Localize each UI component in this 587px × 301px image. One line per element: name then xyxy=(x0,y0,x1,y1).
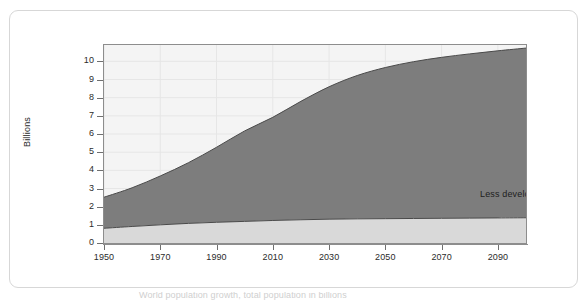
x-axis-tick xyxy=(329,245,330,250)
y-axis-tick-label: 5 xyxy=(74,147,94,156)
x-axis-tick-label: 2090 xyxy=(478,252,518,262)
y-axis-tick-label: 3 xyxy=(74,184,94,193)
x-axis-tick xyxy=(104,245,105,250)
x-axis-line xyxy=(103,244,528,245)
x-axis-tick-label: 2030 xyxy=(309,252,349,262)
y-axis-tick-label: 4 xyxy=(74,165,94,174)
y-axis-tick-label: 0 xyxy=(74,238,94,247)
y-axis-tick-label: 8 xyxy=(74,93,94,102)
y-axis-tick-label: 9 xyxy=(74,75,94,84)
x-axis-tick xyxy=(217,245,218,250)
x-axis-tick-label: 2050 xyxy=(365,252,405,262)
series-label-less-developed-regions: Less developed regions xyxy=(480,189,527,199)
y-axis-tick-label: 1 xyxy=(74,220,94,229)
y-axis-tick-label: 7 xyxy=(74,111,94,120)
y-axis-tick-label: 6 xyxy=(74,129,94,138)
area-chart-svg xyxy=(104,45,526,243)
y-axis-tick-label: 10 xyxy=(74,56,94,65)
x-axis-tick xyxy=(385,245,386,250)
area-less-developed-regions xyxy=(104,48,526,228)
x-axis-tick xyxy=(273,245,274,250)
x-axis-tick-label: 2070 xyxy=(422,252,462,262)
x-axis-tick-label: 1990 xyxy=(197,252,237,262)
y-axis-tick-labels: 012345678910 xyxy=(70,11,94,289)
y-axis-tick-label: 2 xyxy=(74,202,94,211)
x-axis-tick-label: 2010 xyxy=(253,252,293,262)
chart-card: Billions 012345678910 Less developed reg… xyxy=(9,10,578,288)
x-axis-tick xyxy=(160,245,161,250)
screenshot-root: Billions 012345678910 Less developed reg… xyxy=(0,0,587,301)
x-axis-tick-label: 1950 xyxy=(84,252,124,262)
x-axis-tick xyxy=(442,245,443,250)
plot-area: Less developed regions More developed re… xyxy=(103,44,527,244)
x-axis-tick-label: 1970 xyxy=(140,252,180,262)
figure-caption: World population growth, total populatio… xyxy=(139,292,347,300)
y-axis-title: Billions xyxy=(22,102,32,162)
population-area-chart: Billions 012345678910 Less developed reg… xyxy=(10,11,579,289)
x-axis-tick xyxy=(498,245,499,250)
figure-caption-strip: World population growth, total populatio… xyxy=(0,292,587,301)
